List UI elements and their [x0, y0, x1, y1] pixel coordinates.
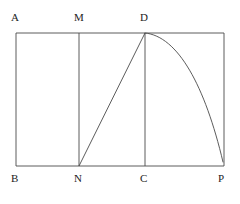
label-m: M: [74, 12, 84, 23]
label-b: B: [11, 173, 18, 184]
label-p: P: [218, 173, 224, 184]
figure-canvas: [0, 0, 240, 204]
geometry-figure: A M D B N C P: [0, 0, 240, 204]
label-c: C: [140, 173, 147, 184]
label-a: A: [11, 12, 19, 23]
segment-nd: [79, 33, 145, 166]
label-n: N: [74, 173, 82, 184]
rectangle-outline: [16, 33, 224, 166]
label-d: D: [140, 12, 148, 23]
arc-dp: [145, 33, 223, 162]
